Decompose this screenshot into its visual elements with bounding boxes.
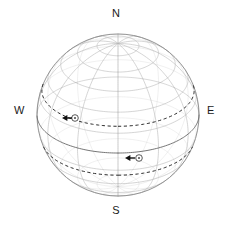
cardinal-label-east: E (207, 105, 214, 116)
cardinal-label-south: S (0, 205, 232, 216)
globe-grid (37, 34, 199, 196)
object-markers (62, 115, 142, 162)
cardinal-label-north: N (0, 8, 232, 19)
celestial-sphere-diagram: N S W E (0, 0, 232, 225)
globe-graphic (0, 0, 232, 225)
cardinal-label-west: W (14, 105, 24, 116)
